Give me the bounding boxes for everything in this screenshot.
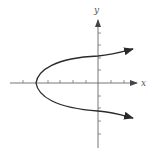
parabola-graph: x y xyxy=(0,0,155,165)
parabola-curve xyxy=(36,49,133,118)
y-axis: y xyxy=(93,5,101,148)
y-axis-label: y xyxy=(93,5,100,15)
x-axis-label: x xyxy=(141,78,146,88)
x-axis: x xyxy=(10,78,146,88)
